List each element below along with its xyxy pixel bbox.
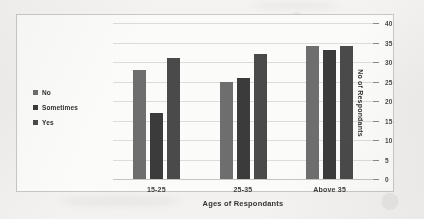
scan-smudge [250, 2, 340, 10]
legend-swatch-icon [33, 120, 38, 125]
bar[interactable] [150, 113, 163, 179]
y-axis-title: No of Respondants [358, 69, 365, 137]
y-axis-tick-label: 35 [385, 39, 393, 46]
legend-item[interactable]: Sometimes [33, 104, 78, 111]
y-axis-tick [373, 160, 379, 161]
bar[interactable] [167, 58, 180, 179]
legend-item[interactable]: Yes [33, 119, 78, 126]
y-axis-tick-label: 25 [385, 78, 393, 85]
scan-smudge [60, 196, 180, 206]
bar-group [133, 23, 180, 179]
y-axis-tick [373, 82, 379, 83]
x-axis-tick-label: Above 35 [286, 186, 373, 193]
bar[interactable] [254, 54, 267, 179]
bar-group [306, 23, 353, 179]
y-axis-tick [373, 43, 379, 44]
legend-swatch-icon [33, 105, 38, 110]
y-axis-tick-label: 10 [385, 137, 393, 144]
plot-area: 051015202530354015-2525-35Above 35 [113, 23, 373, 179]
y-axis-tick [373, 101, 379, 102]
legend-swatch-icon [33, 90, 38, 95]
legend-item-label: Sometimes [42, 104, 78, 111]
bar[interactable] [133, 70, 146, 179]
gridline [113, 179, 373, 180]
chart-frame: 051015202530354015-2525-35Above 35 NoSom… [16, 14, 394, 192]
legend-item-label: No [42, 89, 51, 96]
bar[interactable] [323, 50, 336, 179]
y-axis-tick-label: 30 [385, 59, 393, 66]
x-axis-tick-label: 15-25 [113, 186, 200, 193]
bar[interactable] [340, 46, 353, 179]
y-axis-tick [373, 179, 379, 180]
legend-item-label: Yes [42, 119, 54, 126]
bar[interactable] [220, 82, 233, 180]
bar[interactable] [237, 78, 250, 179]
chart-legend: NoSometimesYes [33, 89, 78, 134]
legend-item[interactable]: No [33, 89, 78, 96]
x-axis-tick-label: 25-35 [200, 186, 287, 193]
y-axis-tick-label: 15 [385, 117, 393, 124]
y-axis-tick [373, 140, 379, 141]
y-axis-tick [373, 23, 379, 24]
bar[interactable] [306, 46, 319, 179]
y-axis-tick [373, 62, 379, 63]
y-axis-tick-label: 0 [385, 176, 389, 183]
y-axis-tick-label: 20 [385, 98, 393, 105]
y-axis-tick-label: 5 [385, 156, 389, 163]
y-axis-tick-label: 40 [385, 20, 393, 27]
y-axis-tick [373, 121, 379, 122]
bar-group [220, 23, 267, 179]
